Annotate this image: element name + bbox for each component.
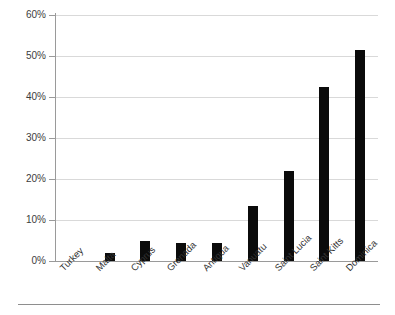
y-axis-tick-mark xyxy=(49,56,55,57)
gridline xyxy=(56,220,378,221)
gridline xyxy=(56,15,378,16)
gridline xyxy=(56,56,378,57)
y-axis-tick-label: 40% xyxy=(6,92,46,102)
y-axis-tick-label: 30% xyxy=(6,133,46,143)
y-axis-tick-label: 20% xyxy=(6,174,46,184)
y-axis-tick-mark xyxy=(49,179,55,180)
y-axis-tick-label: 50% xyxy=(6,51,46,61)
bottom-divider xyxy=(18,304,380,305)
plot-area xyxy=(56,15,378,261)
y-axis-tick-label: 0% xyxy=(6,256,46,266)
y-axis-tick-mark xyxy=(49,261,55,262)
gridline xyxy=(56,97,378,98)
y-axis-tick-mark xyxy=(49,97,55,98)
bar-chart: 0%10%20%30%40%50%60% TurkeyMaltaCyprusGr… xyxy=(0,0,395,315)
y-axis-tick-mark xyxy=(49,138,55,139)
gridline xyxy=(56,138,378,139)
bar xyxy=(319,87,329,261)
gridline xyxy=(56,179,378,180)
y-axis-tick-label: 10% xyxy=(6,215,46,225)
bar xyxy=(355,50,365,261)
y-axis-tick-mark xyxy=(49,220,55,221)
y-axis-tick-mark xyxy=(49,15,55,16)
y-axis-tick-label: 60% xyxy=(6,10,46,20)
y-axis-line xyxy=(55,13,56,262)
